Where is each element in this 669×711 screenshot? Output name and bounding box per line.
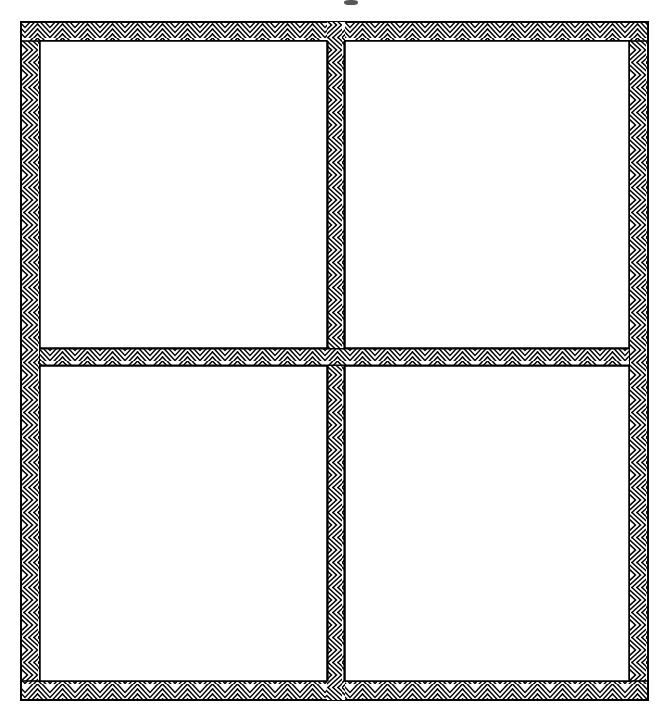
pane-top-left[interactable] xyxy=(40,41,327,348)
pane-bottom-right[interactable] xyxy=(345,366,629,681)
figure-canvas xyxy=(0,0,669,711)
window-frame-drawing xyxy=(0,0,669,711)
cropped-caption-mark xyxy=(344,0,358,5)
pane-top-right[interactable] xyxy=(345,41,629,348)
horizontal-rail xyxy=(40,348,629,366)
pane-bottom-left[interactable] xyxy=(40,366,327,681)
frame-right-stile xyxy=(629,22,648,700)
frame-left-stile xyxy=(21,22,40,700)
